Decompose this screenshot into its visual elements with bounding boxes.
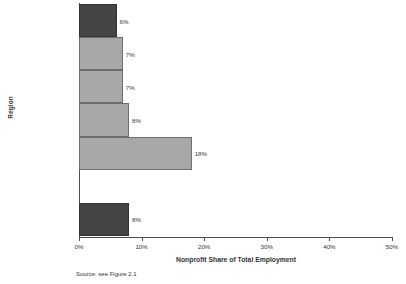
x-axis-tick: [142, 238, 143, 241]
x-axis-line: [79, 237, 393, 238]
bar: [79, 37, 123, 70]
bar-row: Western Maryland8%: [79, 103, 392, 136]
x-axis-tick: [392, 238, 393, 241]
y-axis-title: Region: [7, 78, 14, 138]
x-axis-tick: [329, 238, 330, 241]
bar-value-label: 8%: [129, 116, 141, 123]
x-axis-tick-label: 0%: [75, 243, 84, 250]
bar-value-label: 8%: [129, 216, 141, 223]
bar-value-label: 7%: [123, 50, 135, 57]
bar: [79, 103, 129, 136]
bar-value-label: 18%: [192, 150, 207, 157]
source-note: Source: see Figure 2.1: [76, 271, 137, 277]
x-axis-tick-label: 30%: [261, 243, 273, 250]
x-axis-tick: [79, 238, 80, 241]
bar-row: [79, 170, 392, 203]
bar-row: Eastern Shore7%: [79, 70, 392, 103]
bar-value-label: 6%: [117, 17, 129, 24]
x-axis-title: Nonprofit Share of Total Employment: [79, 256, 393, 263]
bar-row: Baltimore suburbs7%: [79, 37, 392, 70]
x-axis-tick: [267, 238, 268, 241]
bar-chart: Region Washington suburbs6%Baltimore sub…: [0, 0, 406, 284]
x-axis-tick-label: 10%: [135, 243, 147, 250]
bar-value-label: 7%: [123, 83, 135, 90]
x-axis-tick-label: 40%: [323, 243, 335, 250]
bar: [79, 137, 192, 170]
bar-row: Baltimore City18%: [79, 137, 392, 170]
plot-area: Washington suburbs6%Baltimore suburbs7%E…: [79, 4, 392, 236]
x-axis-tick-label: 50%: [386, 243, 398, 250]
bar: [79, 4, 117, 37]
bar: [79, 203, 129, 236]
bar-row: Washington suburbs6%: [79, 4, 392, 37]
bar: [79, 70, 123, 103]
bar-row: TOTAL8%: [79, 203, 392, 236]
x-axis-tick: [204, 238, 205, 241]
x-axis-tick-label: 20%: [198, 243, 210, 250]
